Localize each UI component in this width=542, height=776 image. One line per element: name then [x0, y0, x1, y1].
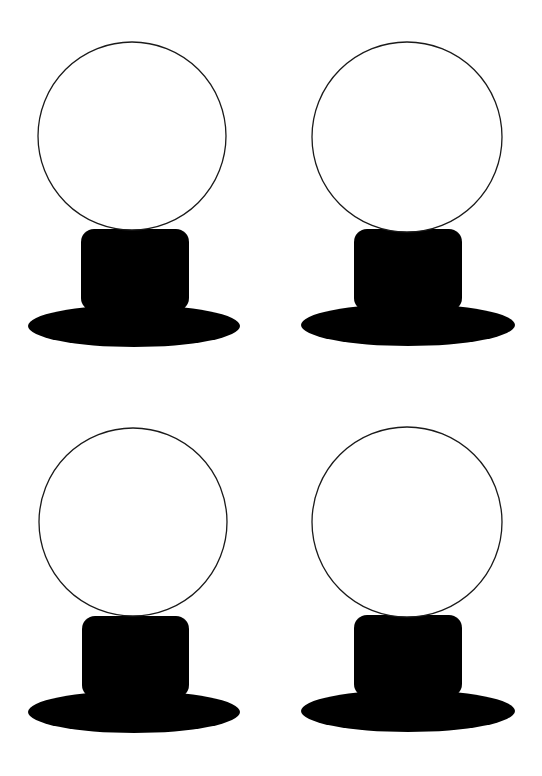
- drawing-canvas: [0, 0, 542, 776]
- figure-neck-block: [354, 615, 462, 697]
- figure-neck-block: [354, 229, 462, 311]
- figure-globe-circle: [312, 427, 502, 617]
- figure-globe-circle: [39, 428, 227, 616]
- figure-base-ellipse: [28, 305, 240, 347]
- figure-globe-circle: [38, 42, 226, 230]
- figure-globe-circle: [312, 42, 502, 232]
- figure-neck-block: [81, 229, 189, 311]
- figure-neck-block: [82, 616, 189, 698]
